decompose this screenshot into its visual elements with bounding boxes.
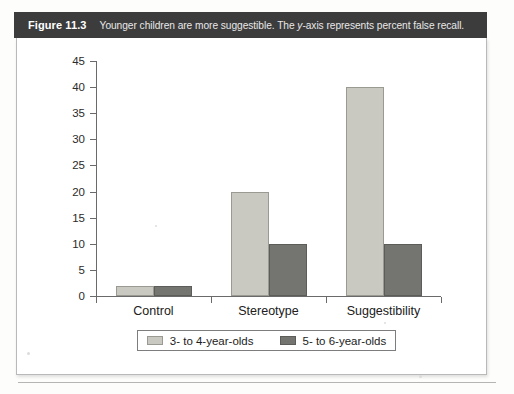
page-background: Figure 11.3 Younger children are more su… — [0, 0, 514, 394]
y-axis-tick-label: 0 — [55, 296, 85, 297]
y-axis-tick-label-text: 10 — [72, 238, 85, 250]
figure-caption-text: Younger children are more suggestible. T… — [100, 20, 465, 31]
y-axis-tick-label-text: 40 — [72, 81, 85, 93]
y-axis-tick-label: 15 — [55, 218, 85, 219]
legend-label: 5- to 6-year-olds — [303, 335, 387, 347]
x-axis-label: Stereotype — [211, 304, 326, 318]
bar — [346, 87, 384, 296]
figure-caption-bar: Figure 11.3 Younger children are more su… — [14, 12, 487, 38]
chart-legend: 3- to 4-year-olds5- to 6-year-olds — [137, 330, 396, 351]
y-axis-tick-label: 20 — [55, 192, 85, 193]
y-axis-tick-label: 30 — [55, 139, 85, 140]
y-axis-line — [96, 61, 97, 297]
y-axis-tick-label: 25 — [55, 165, 85, 166]
bar — [154, 286, 192, 296]
y-axis-tick — [90, 192, 96, 193]
x-axis-tick — [326, 297, 327, 303]
y-axis-tick — [90, 244, 96, 245]
scan-speck — [419, 375, 422, 378]
y-axis-tick-label: 40 — [55, 87, 85, 88]
y-axis-tick — [90, 218, 96, 219]
y-axis-tick-label-text: 20 — [72, 186, 85, 198]
figure-panel: 051015202530354045 ControlStereotypeSugg… — [16, 38, 487, 375]
x-axis-label: Suggestibility — [326, 304, 441, 318]
figure-number: Figure 11.3 — [28, 19, 87, 31]
y-axis-tick-label-text: 25 — [72, 159, 85, 171]
x-axis-line — [96, 296, 441, 297]
legend-entry: 5- to 6-year-olds — [280, 335, 387, 347]
legend-swatch — [147, 336, 163, 345]
x-axis-tick — [211, 297, 212, 303]
scan-speck — [155, 225, 157, 227]
y-axis-tick — [90, 113, 96, 114]
bar — [116, 286, 154, 296]
caption-part-2: -axis represents percent false recall. — [302, 20, 464, 31]
scan-speck — [27, 352, 30, 355]
scan-speck — [384, 322, 386, 324]
y-axis-tick — [90, 165, 96, 166]
bar — [269, 244, 307, 296]
legend-swatch — [280, 336, 296, 345]
legend-entry: 3- to 4-year-olds — [147, 335, 254, 347]
y-axis-tick-label: 45 — [55, 61, 85, 62]
caption-part-1: Younger children are more suggestible. T… — [100, 20, 298, 31]
y-axis-tick — [90, 139, 96, 140]
bar — [231, 192, 269, 296]
y-axis-tick-label-text: 15 — [72, 212, 85, 224]
y-axis-tick — [90, 61, 96, 62]
page-divider-rule — [18, 382, 496, 383]
x-axis-tick — [441, 297, 442, 303]
y-axis-tick-label: 10 — [55, 244, 85, 245]
y-axis-tick-label-text: 45 — [72, 55, 85, 67]
y-axis-tick-label: 35 — [55, 113, 85, 114]
x-axis-tick — [96, 297, 97, 303]
y-axis-tick-label-text: 35 — [72, 107, 85, 119]
y-axis-tick — [90, 270, 96, 271]
bar-chart: 051015202530354045 ControlStereotypeSugg… — [17, 38, 488, 375]
legend-label: 3- to 4-year-olds — [170, 335, 254, 347]
y-axis-tick-label: 5 — [55, 270, 85, 271]
y-axis-tick — [90, 87, 96, 88]
y-axis-tick-label-text: 5 — [79, 264, 85, 276]
x-axis-label: Control — [96, 304, 211, 318]
y-axis-tick-label-text: 0 — [79, 290, 85, 302]
bar — [384, 244, 422, 296]
y-axis-tick-label-text: 30 — [72, 133, 85, 145]
